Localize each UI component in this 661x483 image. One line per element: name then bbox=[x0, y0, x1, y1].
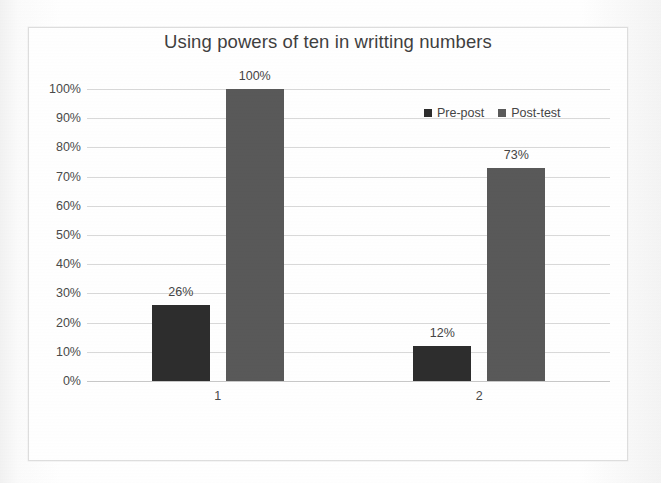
plot-area: 26%100%12%73% bbox=[87, 89, 610, 381]
y-axis-tick-label: 60% bbox=[29, 199, 81, 213]
x-axis-line bbox=[87, 381, 610, 382]
square-marker-icon bbox=[424, 109, 432, 117]
bar-value-label: 26% bbox=[168, 285, 193, 299]
legend-entry: Pre-post bbox=[424, 106, 484, 120]
legend-label: Post-test bbox=[511, 106, 560, 120]
y-axis-tick-label: 30% bbox=[29, 286, 81, 300]
bar-value-label: 73% bbox=[504, 148, 529, 162]
chart-screenshot: Using powers of ten in writting numbers … bbox=[0, 0, 661, 483]
x-axis-category-labels: 12 bbox=[87, 389, 610, 409]
y-axis-tick-labels: 0%10%20%30%40%50%60%70%80%90%100% bbox=[29, 89, 81, 381]
bar bbox=[152, 305, 210, 381]
y-axis-tick-label: 0% bbox=[29, 374, 81, 388]
y-axis-tick-label: 70% bbox=[29, 170, 81, 184]
bar bbox=[413, 346, 471, 381]
bar-value-label: 100% bbox=[239, 69, 271, 83]
y-axis-tick-label: 40% bbox=[29, 257, 81, 271]
x-axis-category-label: 2 bbox=[476, 389, 483, 403]
legend-entry: Post-test bbox=[498, 106, 560, 120]
y-axis-tick-label: 80% bbox=[29, 140, 81, 154]
legend-label: Pre-post bbox=[437, 106, 484, 120]
chart-legend: Pre-postPost-test bbox=[424, 106, 561, 120]
y-axis-tick-label: 100% bbox=[29, 82, 81, 96]
gridline bbox=[87, 147, 610, 148]
bar-value-label: 12% bbox=[430, 326, 455, 340]
bar bbox=[226, 89, 284, 381]
gridline bbox=[87, 89, 610, 90]
y-axis-tick-label: 10% bbox=[29, 345, 81, 359]
chart-title: Using powers of ten in writting numbers bbox=[28, 31, 628, 53]
bar bbox=[487, 168, 545, 381]
y-axis-tick-label: 20% bbox=[29, 316, 81, 330]
x-axis-category-label: 1 bbox=[214, 389, 221, 403]
square-marker-icon bbox=[498, 109, 506, 117]
y-axis-tick-label: 50% bbox=[29, 228, 81, 242]
y-axis-tick-label: 90% bbox=[29, 111, 81, 125]
